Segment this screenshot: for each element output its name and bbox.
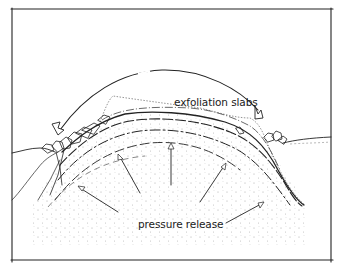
pressure-release-label: pressure release: [138, 218, 223, 230]
left-arrowhead-icon: [52, 122, 64, 135]
exfoliation-diagram: exfoliation slabs pressure release: [0, 0, 344, 273]
diagram-canvas: [0, 0, 344, 273]
exfoliation-slabs-label: exfoliation slabs: [174, 96, 258, 108]
